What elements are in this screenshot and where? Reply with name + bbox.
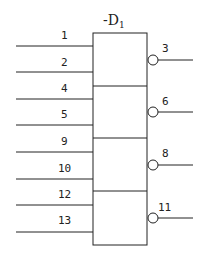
pin-label: 1 <box>61 29 68 42</box>
pin-label: 12 <box>58 188 71 201</box>
chip-title: -D1 <box>103 12 125 30</box>
pin-label: 5 <box>61 108 68 121</box>
pin-label: 8 <box>162 147 169 160</box>
pin-label: 9 <box>61 135 68 148</box>
pin-label: 3 <box>162 42 169 55</box>
pin-label: 4 <box>61 82 68 95</box>
inversion-bubble-icon <box>148 213 158 223</box>
inversion-bubble-icon <box>148 160 158 170</box>
output-pins: 3 6 8 11 <box>148 42 193 223</box>
pin-label: 2 <box>61 56 68 69</box>
pin-label: 11 <box>158 201 171 214</box>
pin-label: 10 <box>58 162 71 175</box>
inversion-bubble-icon <box>148 55 158 65</box>
pin-label: 6 <box>162 95 169 108</box>
logic-gate-diagram: -D1 1 2 4 5 9 10 12 13 3 6 8 11 <box>0 0 205 256</box>
inversion-bubble-icon <box>148 107 158 117</box>
pin-label: 13 <box>58 214 71 227</box>
input-pins: 1 2 4 5 9 10 12 13 <box>16 29 93 232</box>
chip-body <box>93 33 147 245</box>
